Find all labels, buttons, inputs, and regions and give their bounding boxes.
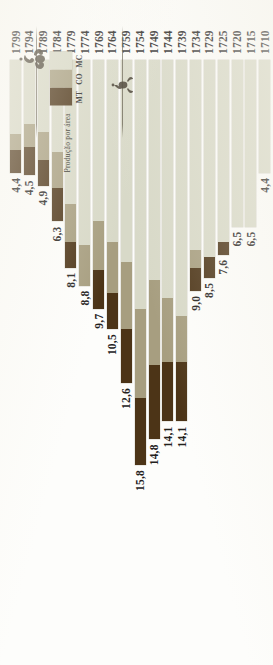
chart-row: 14,11739 [176,60,187,465]
year-axis-label: 1734 [190,30,202,60]
stacked-bar [135,60,146,465]
bar-segment-co [93,221,104,270]
bar-segment-mt [52,188,63,221]
chart-row: 4,91789 [38,60,49,465]
bar-value-label: 9,7 [93,309,105,329]
bar-segment-co [149,280,160,365]
chart-row: 9,71769 [93,60,104,465]
bar-value-label: 8,5 [203,278,215,298]
bar-segment-mc [93,60,104,221]
bar-segment-co [10,134,21,149]
stacked-bar [245,60,256,227]
chart-row: 6,51720 [232,60,243,465]
bar-segment-mc [176,60,187,316]
bar-value-label: 6,5 [245,227,257,247]
bar-segment-mt [218,242,229,255]
bar-segment-co [24,124,35,147]
stacked-bar [176,60,187,421]
bar-segment-mt [121,329,132,383]
bar-segment-co [79,245,90,286]
year-axis-label: 1720 [231,30,243,60]
legend-swatch-co [50,70,72,88]
bar-segment-co [38,132,49,160]
year-axis-label: 1725 [217,30,229,60]
chart-row: 8,51729 [204,60,215,465]
stacked-bar [93,60,104,309]
floral-ornament-right [110,74,136,96]
bar-value-label: 8,1 [65,268,77,288]
bar-value-label: 15,8 [134,465,146,491]
chart-legend: Produção por área MTCOMC [50,52,84,173]
chart-row: 4,41710 [259,60,270,465]
bar-segment-co [162,298,173,362]
legend-key-co: CO [75,70,84,88]
bar-value-label: 4,9 [37,186,49,206]
bar-segment-mt [93,270,104,308]
bar-segment-mt [176,362,187,421]
bar-segment-mc [259,60,270,173]
legend-swatch-strip [50,52,72,106]
year-axis-label: 1715 [245,30,257,60]
stacked-bar [10,60,21,173]
legend-key-mt: MT [75,88,84,106]
bar-value-label: 14,8 [148,439,160,465]
chart-row: 4,51794 [24,60,35,465]
year-axis-label: 1710 [259,30,271,60]
bar-value-label: 12,6 [120,383,132,409]
bar-segment-mt [162,362,173,421]
stacked-bar [204,60,215,278]
bar-value-label: 8,8 [79,286,91,306]
bar-segment-co [176,316,187,362]
chart-row: 10,51764 [107,60,118,465]
bar-segment-mt [107,293,118,329]
legend-key-mc: MC [75,52,84,70]
bar-segment-mt [204,257,215,278]
chart-row: 15,81754 [135,60,146,465]
legend-swatches: MTCOMC [50,52,84,106]
stacked-bar [259,60,270,173]
year-axis-label: 1769 [93,30,105,60]
bar-segment-co [121,262,132,329]
year-axis-label: 1764 [106,30,118,60]
stacked-bar [190,60,201,291]
legend-divider-left [36,26,37,138]
bar-segment-mt [190,268,201,291]
bar-segment-mt [135,398,146,465]
stacked-bar [232,60,243,227]
bar-segment-mc [149,60,160,280]
stacked-bar [107,60,118,329]
bar-segment-mc [162,60,173,298]
bar-value-label: 6,5 [231,227,243,247]
bar-value-label: 4,4 [259,173,271,193]
legend-swatch-mt [50,88,72,106]
bar-value-label: 14,1 [162,421,174,447]
bar-segment-mt [65,242,76,268]
stacked-bar [218,60,229,255]
bar-segment-mt [10,150,21,173]
bar-value-label: 14,1 [176,421,188,447]
chart-row: 6,51715 [245,60,256,465]
bar-segment-mc [218,60,229,242]
chart-row: 14,11744 [162,60,173,465]
stacked-bar [162,60,173,421]
floral-ornament-left [18,46,48,72]
bar-value-label: 4,4 [10,173,22,193]
bar-value-label: 9,0 [190,291,202,311]
bar-segment-mc [135,60,146,309]
year-axis-label: 1744 [162,30,174,60]
chart-row: 4,41799 [10,60,21,465]
chart-row: 9,01734 [190,60,201,465]
bar-segment-mc [245,60,256,227]
bar-segment-co [190,250,201,268]
bar-segment-co [135,309,146,399]
chart-row: 7,61725 [218,60,229,465]
stacked-bar [24,60,35,175]
stacked-bar [149,60,160,439]
bar-segment-mc [190,60,201,250]
bar-segment-mt [149,365,160,439]
year-axis-label: 1729 [203,30,215,60]
bar-segment-mt [24,147,35,175]
bar-value-label: 10,5 [106,329,118,355]
year-axis-label: 1754 [134,30,146,60]
bar-value-label: 6,3 [51,222,63,242]
